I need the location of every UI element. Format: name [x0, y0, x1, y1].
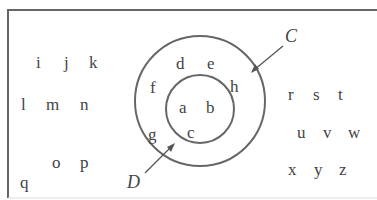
- element-f: f: [150, 78, 156, 97]
- element-l: l: [21, 95, 26, 114]
- element-n: n: [80, 95, 89, 114]
- element-y: y: [314, 160, 323, 179]
- set-d-label: D: [126, 172, 140, 192]
- set-c-label: C: [285, 26, 298, 46]
- venn-diagram: i j k l m n o p q d e f h g a b c r s t …: [0, 0, 377, 200]
- set-c-circle: [135, 36, 265, 166]
- element-m: m: [46, 95, 59, 114]
- arrow-c: [254, 46, 283, 70]
- element-c: c: [187, 123, 195, 142]
- element-d: d: [176, 54, 185, 73]
- set-d-circle: [166, 75, 234, 143]
- element-q: q: [20, 173, 29, 192]
- element-j: j: [63, 53, 69, 72]
- element-v: v: [323, 123, 332, 142]
- element-x: x: [288, 160, 297, 179]
- element-r: r: [288, 85, 294, 104]
- element-k: k: [89, 53, 98, 72]
- element-t: t: [338, 85, 343, 104]
- element-g: g: [148, 125, 157, 144]
- element-p: p: [80, 153, 89, 172]
- element-i: i: [36, 53, 41, 72]
- element-w: w: [348, 123, 361, 142]
- element-b: b: [206, 98, 215, 117]
- element-u: u: [297, 123, 306, 142]
- element-s: s: [313, 85, 320, 104]
- element-z: z: [339, 160, 347, 179]
- element-a: a: [179, 98, 187, 117]
- element-o: o: [52, 153, 61, 172]
- element-e: e: [207, 54, 215, 73]
- element-h: h: [230, 77, 239, 96]
